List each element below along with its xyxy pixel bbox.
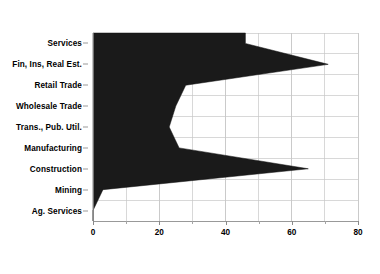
value-axis: 020406080	[93, 221, 358, 261]
value-axis-tick	[159, 221, 160, 225]
value-axis-minor-tick	[192, 221, 193, 224]
category-label: Mining	[55, 185, 82, 194]
category-label: Ag. Services	[32, 206, 82, 215]
value-axis-tick-label: 60	[287, 228, 296, 237]
category-axis: ServicesFin, Ins, Real Est.Retail TradeW…	[0, 0, 88, 274]
value-axis-tick-label: 40	[221, 228, 230, 237]
category-label: Fin, Ins, Real Est.	[12, 60, 82, 69]
value-axis-tick	[93, 221, 94, 225]
category-tick	[83, 64, 88, 65]
value-axis-tick	[292, 221, 293, 225]
category-tick	[83, 85, 88, 86]
category-label: Construction	[30, 164, 82, 173]
category-tick	[83, 43, 88, 44]
value-axis-minor-tick	[126, 221, 127, 224]
value-axis-tick	[226, 221, 227, 225]
value-axis-tick-label: 80	[353, 228, 362, 237]
value-axis-tick-label: 0	[91, 228, 96, 237]
chart-container: ServicesFin, Ins, Real Est.Retail TradeW…	[0, 0, 380, 274]
category-tick	[83, 189, 88, 190]
category-tick	[83, 210, 88, 211]
value-axis-tick	[358, 221, 359, 225]
category-tick	[83, 147, 88, 148]
category-tick	[83, 168, 88, 169]
category-tick	[83, 127, 88, 128]
category-label: Trans., Pub. Util.	[16, 123, 82, 132]
category-label: Services	[48, 39, 83, 48]
area-chart-svg	[93, 33, 358, 221]
category-label: Retail Trade	[34, 81, 82, 90]
value-axis-minor-tick	[259, 221, 260, 224]
category-label: Wholesale Trade	[16, 102, 82, 111]
category-tick	[83, 106, 88, 107]
value-axis-minor-tick	[325, 221, 326, 224]
category-label: Manufacturing	[24, 143, 82, 152]
plot-area	[93, 33, 358, 221]
area-series-shape	[93, 33, 328, 221]
value-axis-tick-label: 20	[155, 228, 164, 237]
